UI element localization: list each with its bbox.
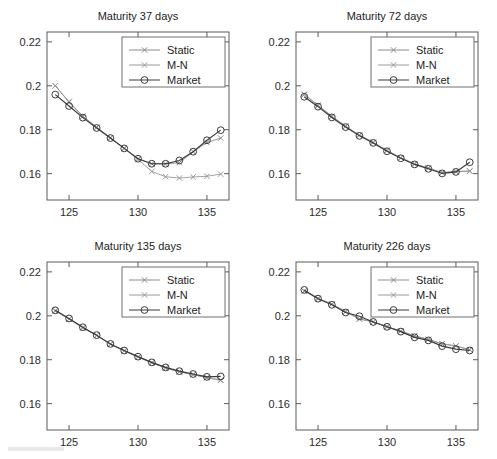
legend-label-mn: M-N [416,59,437,71]
legend-label-mn: M-N [167,59,188,71]
y-tick-label: 0.22 [20,266,41,278]
x-tick-label: 135 [198,206,216,218]
chart-panel-2: Maturity 135 days1251301350.160.180.20.2… [0,230,248,459]
y-tick-label: 0.18 [20,124,41,136]
x-tick-label: 130 [129,206,147,218]
y-tick-label: 0.2 [26,310,41,322]
y-tick-label: 0.22 [20,36,41,48]
x-tick-label: 125 [309,436,327,448]
y-tick-label: 0.16 [20,398,41,410]
x-tick-label: 130 [378,206,396,218]
marker-mn [53,83,58,88]
chart-svg-0: Maturity 37 days1251301350.160.180.20.22… [0,0,248,229]
marker-market [52,91,59,98]
chart-panel-1: Maturity 72 days1251301350.160.180.20.22… [249,0,497,229]
chart-svg-2: Maturity 135 days1251301350.160.180.20.2… [0,230,248,459]
chart-panel-0: Maturity 37 days1251301350.160.180.20.22… [0,0,248,229]
legend-label-market: Market [167,74,201,86]
chart-svg-1: Maturity 72 days1251301350.160.180.20.22… [249,0,497,229]
marker-market [301,286,308,293]
x-tick-label: 135 [198,436,216,448]
x-tick-label: 135 [447,206,465,218]
y-tick-label: 0.2 [275,310,290,322]
panel-title: Maturity 37 days [98,10,179,22]
y-tick-label: 0.16 [269,398,290,410]
x-tick-label: 135 [447,436,465,448]
y-tick-label: 0.16 [269,168,290,180]
x-tick-label: 125 [60,206,78,218]
legend-label-market: Market [416,74,450,86]
y-tick-label: 0.18 [20,354,41,366]
y-tick-label: 0.16 [20,168,41,180]
chart-panel-3: Maturity 226 days1251301350.160.180.20.2… [249,230,497,459]
series-line-static [304,95,469,173]
series-line-market [304,97,469,174]
x-tick-label: 130 [378,436,396,448]
legend-label-mn: M-N [416,289,437,301]
y-tick-label: 0.2 [26,80,41,92]
volatility-smile-figure: Maturity 37 days1251301350.160.180.20.22… [0,0,497,459]
x-tick-label: 130 [129,436,147,448]
series-line-mn [304,94,469,173]
marker-market [217,127,224,134]
scan-artifact [8,447,64,451]
y-tick-label: 0.2 [275,80,290,92]
legend-label-static: Static [416,44,444,56]
y-tick-label: 0.18 [269,124,290,136]
marker-market [466,159,473,166]
legend-label-static: Static [416,274,444,286]
y-tick-label: 0.22 [269,36,290,48]
series-line-market [55,310,220,377]
series-line-mn [55,86,220,178]
series-line-static [55,86,220,164]
marker-mn [149,169,154,174]
panel-title: Maturity 135 days [95,240,182,252]
legend-label-mn: M-N [167,289,188,301]
y-tick-label: 0.22 [269,266,290,278]
y-tick-label: 0.18 [269,354,290,366]
series-line-mn [55,311,220,380]
marker-static [218,135,223,140]
legend-label-static: Static [167,44,195,56]
x-tick-label: 125 [309,206,327,218]
legend-label-market: Market [416,304,450,316]
legend-label-market: Market [167,304,201,316]
chart-svg-3: Maturity 226 days1251301350.160.180.20.2… [249,230,497,459]
legend-label-static: Static [167,274,195,286]
panel-title: Maturity 226 days [344,240,431,252]
panel-title: Maturity 72 days [347,10,428,22]
series-line-static [55,311,220,380]
